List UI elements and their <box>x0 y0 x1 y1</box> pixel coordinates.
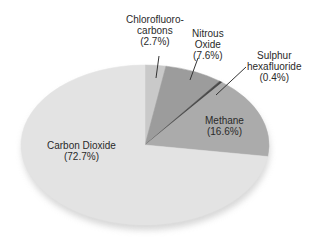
label-sf6-line1: Sulphur <box>247 50 301 61</box>
label-sf6-line2: hexafluoride <box>247 61 301 72</box>
label-cfc-line1: Chlorofluoro- <box>126 14 184 25</box>
label-cfc: Chlorofluoro- carbons (2.7%) <box>126 14 184 47</box>
label-sf6: Sulphur hexafluoride (0.4%) <box>247 50 301 83</box>
label-methane: Methane (16.6%) <box>205 115 244 137</box>
label-nitrous-line2: Oxide <box>192 39 224 50</box>
label-nitrous: Nitrous Oxide (7.6%) <box>192 28 224 61</box>
label-co2: Carbon Dioxide (72.7%) <box>47 140 116 162</box>
label-cfc-value: (2.7%) <box>126 36 184 47</box>
label-methane-value: (16.6%) <box>205 126 244 137</box>
label-methane-line1: Methane <box>205 115 244 126</box>
label-co2-line1: Carbon Dioxide <box>47 140 116 151</box>
label-nitrous-value: (7.6%) <box>192 50 224 61</box>
label-co2-value: (72.7%) <box>47 151 116 162</box>
label-sf6-value: (0.4%) <box>247 72 301 83</box>
label-cfc-line2: carbons <box>126 25 184 36</box>
label-nitrous-line1: Nitrous <box>192 28 224 39</box>
